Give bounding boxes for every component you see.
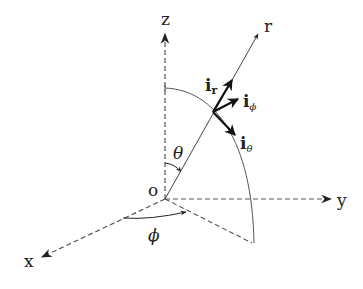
- z-label: z: [161, 9, 170, 29]
- x-axis: [42, 199, 165, 257]
- y-label: y: [336, 190, 347, 210]
- iphi-subscript: ϕ: [249, 101, 256, 112]
- ir-label: ir: [205, 75, 217, 97]
- theta-label: θ: [173, 143, 183, 163]
- theta-arc: [165, 163, 181, 172]
- origin-label: o: [148, 180, 158, 200]
- x-label: x: [24, 251, 34, 271]
- iphi-label: iϕ: [243, 91, 256, 112]
- meridian-arc: [165, 88, 254, 243]
- phi-label: ϕ: [148, 225, 160, 245]
- ir-subscript: r: [211, 84, 217, 97]
- itheta-subscript: θ: [246, 143, 252, 154]
- unit-vector-theta: [213, 112, 235, 135]
- phi-arc: [123, 212, 186, 218]
- projection-line: [165, 199, 252, 243]
- spherical-coordinates-diagram: z r y x o θ ϕ ir iϕ iθ: [0, 0, 363, 289]
- r-ray: [165, 34, 258, 199]
- r-label: r: [264, 16, 273, 36]
- itheta-label: iθ: [240, 133, 253, 154]
